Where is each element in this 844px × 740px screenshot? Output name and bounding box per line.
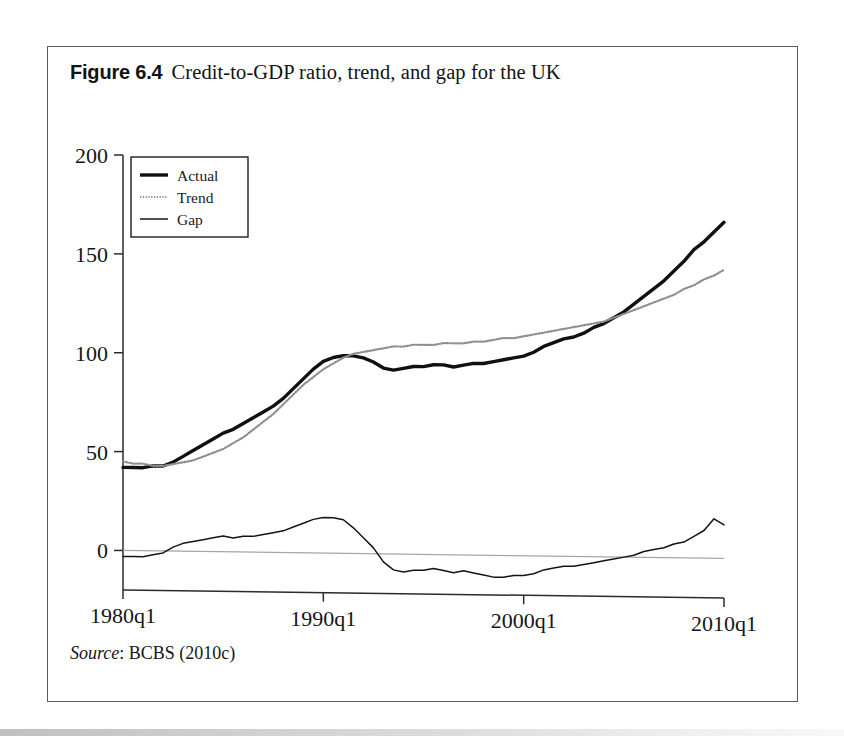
x-axis-tick-label: 2010q1 xyxy=(691,611,757,636)
series-line-gap xyxy=(123,518,724,578)
figure-source: Source: BCBS (2010c) xyxy=(70,643,235,664)
y-axis-tick-label: 200 xyxy=(75,143,108,168)
credit-to-gdp-chart: 050100150200 1980q11990q12000q12010q1 Ac… xyxy=(48,47,799,703)
x-axis-tick-label: 1980q1 xyxy=(90,603,156,628)
chart-plot-area: 050100150200 1980q11990q12000q12010q1 Ac… xyxy=(48,47,799,703)
y-axis-tick-labels: 050100150200 xyxy=(75,143,108,563)
x-axis-tick-label: 1990q1 xyxy=(290,606,356,631)
x-axis-ticks xyxy=(123,590,724,607)
x-axis-line xyxy=(123,590,724,598)
legend-label-actual: Actual xyxy=(177,167,218,184)
chart-legend: ActualTrendGap xyxy=(131,157,248,237)
y-axis-tick-label: 150 xyxy=(75,242,108,267)
legend-label-trend: Trend xyxy=(177,189,214,206)
zero-reference-line xyxy=(123,550,724,558)
source-label: Source xyxy=(70,643,119,663)
x-axis-tick-labels: 1980q11990q12000q12010q1 xyxy=(90,603,757,636)
y-axis-tick-label: 100 xyxy=(75,341,108,366)
figure-frame: Figure 6.4Credit-to-GDP ratio, trend, an… xyxy=(47,46,798,702)
y-axis-ticks xyxy=(114,155,123,550)
y-axis-tick-label: 50 xyxy=(86,440,108,465)
page-canvas: Figure 6.4Credit-to-GDP ratio, trend, an… xyxy=(0,0,844,740)
page-bottom-edge xyxy=(0,729,844,736)
x-axis-tick-label: 2000q1 xyxy=(491,608,557,633)
y-axis-tick-label: 0 xyxy=(97,538,108,563)
chart-series-group xyxy=(123,222,724,577)
source-citation: : BCBS (2010c) xyxy=(119,643,235,663)
legend-label-gap: Gap xyxy=(177,211,203,228)
